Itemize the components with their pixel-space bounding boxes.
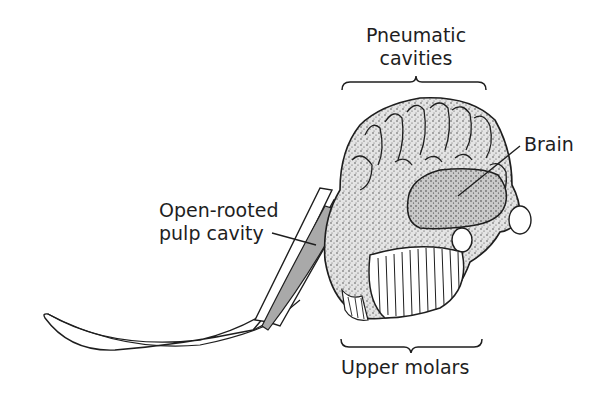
label-pulp-line1: Open-rooted: [159, 199, 278, 222]
label-pneumatic-line1: Pneumatic: [340, 24, 492, 47]
pneumatic-brace: [342, 76, 486, 90]
walrus-skull-diagram: [0, 0, 610, 401]
label-pneumatic-cavities: Pneumatic cavities: [340, 24, 492, 70]
label-pulp-line2: pulp cavity: [159, 222, 278, 245]
label-pulp-cavity: Open-rooted pulp cavity: [159, 199, 278, 245]
label-pneumatic-line2: cavities: [340, 47, 492, 70]
molars-brace: [341, 339, 482, 353]
upper-molars: [369, 247, 464, 318]
label-upper-molars: Upper molars: [341, 356, 469, 379]
brain: [408, 169, 507, 229]
label-brain: Brain: [524, 133, 574, 156]
